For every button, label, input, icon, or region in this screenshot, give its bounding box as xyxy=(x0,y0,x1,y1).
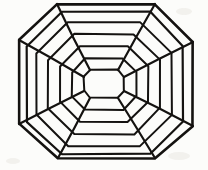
figure-root xyxy=(0,0,208,170)
octagon-web-diagram xyxy=(0,0,208,170)
